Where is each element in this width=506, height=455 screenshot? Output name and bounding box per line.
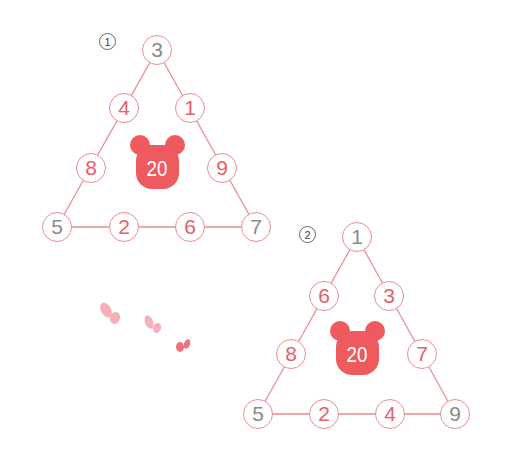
right-side-node[interactable]: 1 [175,93,205,123]
puzzle-page: 1 3 4 8 1 9 5 2 6 7 20 2 1 6 8 3 7 5 2 4… [0,0,506,455]
top-vertex-node: 1 [342,222,372,252]
right-side-node[interactable]: 9 [207,153,237,183]
left-side-node[interactable]: 6 [309,281,339,311]
right-side-node[interactable]: 3 [374,281,404,311]
puzzle-number-label: 1 [99,33,116,50]
puzzle-number-label: 2 [299,226,316,243]
bottom-right-vertex-node: 7 [241,212,271,242]
bottom-side-node[interactable]: 2 [109,212,139,242]
bottom-side-node[interactable]: 4 [375,399,405,429]
bottom-side-node[interactable]: 2 [309,399,339,429]
left-side-node[interactable]: 8 [276,339,306,369]
bottom-right-vertex-node: 9 [440,399,470,429]
butterfly-icon [143,314,163,334]
bottom-side-node[interactable]: 6 [175,212,205,242]
bottom-left-vertex-node: 5 [42,212,72,242]
left-side-node[interactable]: 4 [109,93,139,123]
bottom-left-vertex-node: 5 [243,399,273,429]
left-side-node[interactable]: 8 [76,153,106,183]
target-sum: 20 [347,342,368,368]
target-sum: 20 [147,156,168,182]
top-vertex-node: 3 [142,35,172,65]
butterfly-icon [98,301,122,326]
butterfly-icon [176,338,192,352]
right-side-node[interactable]: 7 [407,339,437,369]
